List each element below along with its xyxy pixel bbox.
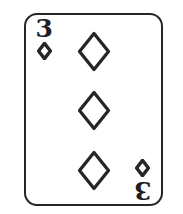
diamond-icon: [37, 42, 52, 60]
corner-index-bottom-right: 3: [128, 159, 158, 203]
rank-label-bottom-right: 3: [135, 178, 152, 203]
diamond-icon: [77, 90, 111, 131]
corner-index-top-left: 3: [29, 16, 59, 60]
diamond-icon: [136, 159, 151, 177]
rank-label-top-left: 3: [36, 16, 53, 41]
card-scene: 3: [0, 0, 183, 214]
playing-card[interactable]: 3: [24, 13, 163, 206]
diamond-icon: [77, 31, 111, 72]
diamond-icon: [77, 150, 111, 191]
